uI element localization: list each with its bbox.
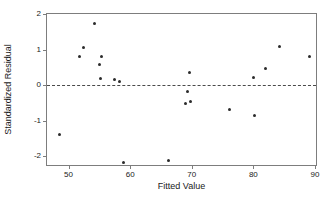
y-axis-tick xyxy=(43,156,47,157)
x-axis-tick-label: 80 xyxy=(249,171,258,179)
x-axis-tick xyxy=(69,165,70,169)
x-axis-tick-label: 60 xyxy=(126,171,135,179)
data-point xyxy=(228,108,231,111)
x-axis-tick-label: 50 xyxy=(64,171,73,179)
y-axis-tick xyxy=(43,14,47,15)
data-point xyxy=(167,159,170,162)
y-axis-tick-label: 2 xyxy=(37,10,41,18)
x-axis-tick-label: 70 xyxy=(187,171,196,179)
data-point xyxy=(100,55,103,58)
data-point xyxy=(82,46,85,49)
y-axis-title: Standardized Residual xyxy=(2,13,14,166)
plot-area: 210-1-25060708090 xyxy=(47,14,316,165)
data-point xyxy=(278,45,281,48)
data-point xyxy=(189,100,192,103)
residual-scatter-figure: Standardized Residual 210-1-25060708090 … xyxy=(0,0,325,198)
plot-frame: 210-1-25060708090 xyxy=(46,13,317,166)
x-axis-title: Fitted Value xyxy=(46,182,317,191)
y-axis-tick xyxy=(43,85,47,86)
y-axis-tick-label: -1 xyxy=(34,117,41,125)
y-axis-tick-label: -2 xyxy=(34,152,41,160)
x-axis-title-label: Fitted Value xyxy=(158,181,205,191)
data-point xyxy=(78,55,81,58)
x-axis-tick xyxy=(192,165,193,169)
y-axis-tick xyxy=(43,121,47,122)
data-point xyxy=(99,77,102,80)
x-axis-tick xyxy=(130,165,131,169)
data-point xyxy=(264,67,267,70)
data-point xyxy=(184,102,187,105)
data-point xyxy=(253,114,256,117)
x-axis-tick-label: 90 xyxy=(310,171,319,179)
x-axis-tick xyxy=(315,165,316,169)
data-point xyxy=(118,80,121,83)
data-point xyxy=(188,71,191,74)
data-point xyxy=(252,76,255,79)
data-point xyxy=(186,90,189,93)
data-point xyxy=(58,133,61,136)
data-point xyxy=(308,55,311,58)
data-point xyxy=(93,22,96,25)
zero-reference-line xyxy=(47,85,316,86)
data-point xyxy=(113,78,116,81)
y-axis-tick-label: 0 xyxy=(37,81,41,89)
x-axis-tick xyxy=(253,165,254,169)
data-point xyxy=(122,161,125,164)
y-axis-tick xyxy=(43,50,47,51)
data-point xyxy=(98,63,101,66)
y-axis-tick-label: 1 xyxy=(37,46,41,54)
y-axis-title-label: Standardized Residual xyxy=(4,44,13,135)
